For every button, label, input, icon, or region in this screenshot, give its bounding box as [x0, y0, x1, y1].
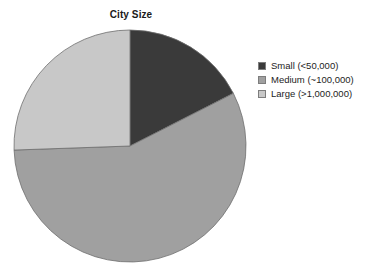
legend-color-swatch [258, 90, 266, 98]
pie-slice-group [14, 30, 246, 262]
legend-item-label: Large (>1,000,000) [271, 88, 352, 100]
legend-color-swatch [258, 62, 266, 70]
legend-item-label: Small (<50,000) [271, 60, 338, 72]
legend-item-label: Medium (~100,000) [271, 74, 354, 86]
chart-legend: Small (<50,000)Medium (~100,000)Large (>… [258, 60, 354, 100]
legend-item[interactable]: Large (>1,000,000) [258, 88, 354, 100]
legend-item[interactable]: Small (<50,000) [258, 60, 354, 72]
pie-chart-figure: City Size Small (<50,000)Medium (~100,00… [0, 0, 379, 277]
pie-chart-canvas [0, 0, 379, 277]
legend-item[interactable]: Medium (~100,000) [258, 74, 354, 86]
pie-slice[interactable] [14, 30, 130, 150]
legend-color-swatch [258, 76, 266, 84]
